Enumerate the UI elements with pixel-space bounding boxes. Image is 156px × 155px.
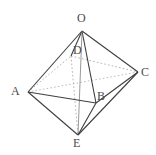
vertex-label-E: E <box>73 137 80 149</box>
vertex-label-A: A <box>11 85 20 97</box>
vertex-label-B: B <box>97 90 105 102</box>
vertex-label-O: O <box>77 12 86 24</box>
edge-O-C <box>82 31 138 72</box>
edge-O-A <box>28 31 82 92</box>
vertex-label-C: C <box>141 66 149 78</box>
vertex-label-D: D <box>73 44 82 56</box>
visible-edges <box>28 31 138 135</box>
geometry-figure: O D C A B E <box>0 0 156 155</box>
edge-D-E-hidden <box>71 56 78 135</box>
edge-O-B <box>82 31 96 103</box>
edge-A-D-hidden <box>28 56 71 92</box>
hidden-edges <box>28 56 138 135</box>
edge-C-E <box>78 72 138 135</box>
